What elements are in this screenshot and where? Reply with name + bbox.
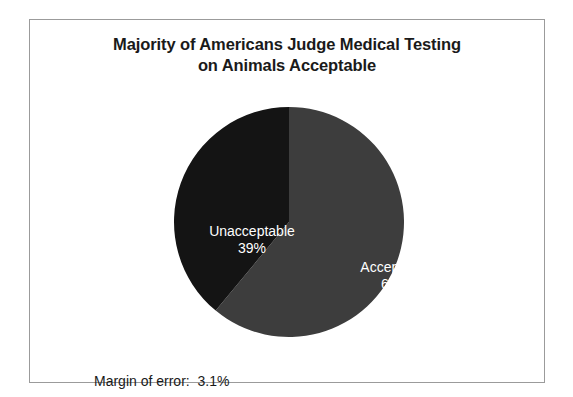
pie-chart — [174, 107, 404, 337]
chart-title: Majority of Americans Judge Medical Test… — [30, 34, 544, 76]
chart-title-line-1: Majority of Americans Judge Medical Test… — [30, 34, 544, 55]
pie-chart-svg — [174, 107, 404, 337]
chart-title-line-2: on Animals Acceptable — [30, 55, 544, 76]
margin-of-error-note: Margin of error: 3.1% — [94, 373, 229, 389]
chart-frame: Majority of Americans Judge Medical Test… — [29, 19, 545, 383]
